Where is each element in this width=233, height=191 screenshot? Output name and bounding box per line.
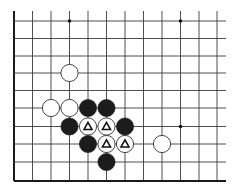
black-stone <box>98 99 115 116</box>
white-stone-icon <box>79 118 96 135</box>
black-stone-icon <box>98 99 115 116</box>
white-stone-triangle-marked <box>98 135 115 152</box>
white-stone <box>42 99 59 116</box>
star-point-icon <box>179 125 183 129</box>
black-stone-icon <box>98 153 115 170</box>
star-point-icon <box>179 19 183 23</box>
white-stone-triangle-marked <box>79 118 96 135</box>
go-board <box>0 0 233 191</box>
black-stone-icon <box>116 118 133 135</box>
black-stone <box>116 118 133 135</box>
black-stone <box>61 118 78 135</box>
white-stone-icon <box>116 135 133 152</box>
white-stone <box>61 64 78 81</box>
white-stone-triangle-marked <box>98 118 115 135</box>
black-stone-icon <box>79 99 96 116</box>
white-stone-icon <box>98 135 115 152</box>
white-stone-icon <box>61 64 78 81</box>
white-stone-icon <box>153 135 170 152</box>
black-stone-icon <box>79 135 96 152</box>
star-point-icon <box>68 19 72 23</box>
white-stone <box>61 99 78 116</box>
black-stone <box>79 135 96 152</box>
board-grid <box>14 11 226 181</box>
white-stone-icon <box>42 99 59 116</box>
white-stone-icon <box>98 118 115 135</box>
black-stone <box>79 99 96 116</box>
white-stone <box>153 135 170 152</box>
black-stone <box>98 153 115 170</box>
white-stone-icon <box>61 99 78 116</box>
black-stone-icon <box>61 118 78 135</box>
white-stone-triangle-marked <box>116 135 133 152</box>
